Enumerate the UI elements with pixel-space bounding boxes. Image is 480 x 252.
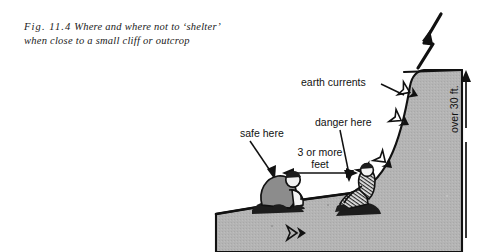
label-distance-line2: feet [311,158,329,170]
label-danger-here: danger here [315,117,372,129]
label-height: over 30 ft. [449,69,461,133]
label-distance: 3 or more feet [288,147,352,170]
label-distance-line1: 3 or more [298,146,343,158]
lightning-bolt-icon [418,14,441,68]
label-safe-here: safe here [240,128,284,140]
label-earth-currents: earth currents [301,77,366,89]
figure-illustration: Fig. 11.4 Where and where not to ‘shelte… [0,0,480,252]
illustration-canvas [0,0,480,252]
crouching-person-icon [252,171,305,214]
